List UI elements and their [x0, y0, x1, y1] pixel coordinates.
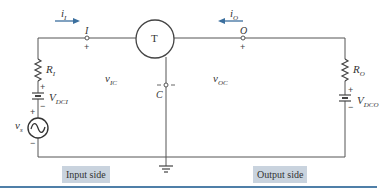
output-battery-icon: [339, 95, 351, 101]
input-resistor-icon: [35, 59, 41, 81]
output-terminal-plus: +: [240, 43, 245, 52]
input-side-label: Input side: [62, 166, 110, 183]
output-terminal-label: O: [240, 26, 247, 36]
input-battery-minus: −: [40, 102, 45, 111]
device-label: T: [151, 33, 158, 44]
input-current-arrow-icon: [55, 18, 80, 24]
input-voltage-label: vIC: [105, 73, 117, 87]
output-side-label: Output side: [253, 166, 307, 183]
common-terminal-label: C: [156, 90, 163, 100]
output-battery-plus: +: [348, 86, 353, 95]
input-dc-source-label: VDCI: [49, 92, 68, 106]
signal-source-label: vs: [15, 120, 23, 134]
output-resistor-label: RO: [353, 64, 365, 78]
output-current-label: iO: [230, 8, 238, 22]
output-resistor-icon: [342, 59, 348, 81]
input-battery-icon: [32, 93, 44, 99]
source-minus: −: [30, 139, 35, 148]
input-battery-plus: +: [40, 83, 45, 92]
input-terminal-plus: +: [84, 43, 89, 52]
source-plus: +: [30, 108, 35, 117]
input-resistor-label: RI: [46, 64, 55, 78]
output-battery-minus: −: [348, 103, 353, 112]
output-voltage-label: vOC: [213, 73, 228, 87]
terminal-I-icon: [85, 36, 89, 40]
terminal-C-icon: [164, 83, 168, 87]
input-terminal-label: I: [85, 26, 88, 36]
input-current-label: iI: [61, 8, 66, 22]
output-dc-source-label: VDCO: [357, 95, 379, 109]
bottom-rule: [0, 186, 377, 188]
ground-icon: [159, 166, 173, 172]
terminal-O-icon: [241, 36, 245, 40]
